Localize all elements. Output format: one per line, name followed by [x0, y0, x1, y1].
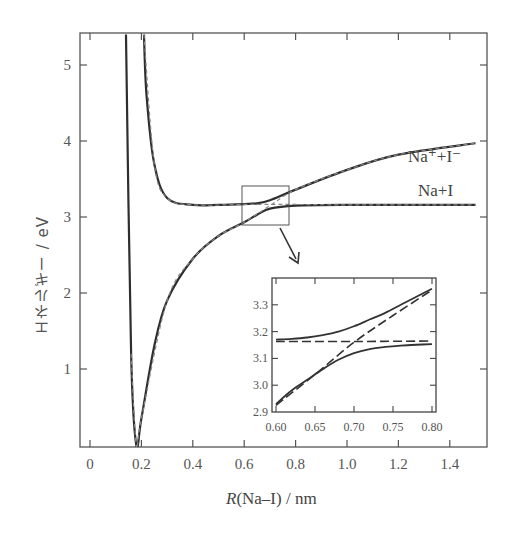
inset-x-tick-label: 0.75	[383, 420, 404, 434]
ionic-asymptote-label: Na⁺+I⁻	[408, 147, 461, 166]
x-tick-label: 0.2	[132, 456, 151, 472]
inset-y-tick-label: 3.2	[253, 325, 268, 339]
x-tick-label: 1.0	[338, 456, 357, 472]
inset-y-tick-label: 3.3	[253, 298, 268, 312]
y-axis-title: エネルギー / eV	[30, 175, 54, 375]
x-axis-title-variable: R	[225, 489, 237, 508]
adiabatic-curve	[144, 35, 476, 206]
inset-x-tick-label: 0.80	[422, 420, 443, 434]
arrow-icon	[280, 228, 299, 263]
covalent-asymptote-label: Na+I	[418, 181, 453, 200]
x-axis-title-rest: (Na–I) / nm	[236, 489, 316, 508]
inset-y-tick-label: 2.9	[253, 405, 268, 419]
x-tick-label: 0.8	[286, 456, 305, 472]
x-axis-title: R(Na–I) / nm	[225, 489, 317, 508]
x-tick-label: 1.4	[440, 456, 459, 472]
diabatic-curve	[144, 35, 476, 206]
x-tick-label: 0.6	[235, 456, 254, 472]
inset-x-tick-label: 0.65	[305, 420, 326, 434]
x-tick-label: 0.4	[183, 456, 202, 472]
y-tick-label: 1	[64, 361, 72, 377]
y-tick-label: 4	[64, 133, 72, 149]
y-tick-label: 5	[64, 57, 72, 73]
inset-y-tick-label: 3.1	[253, 351, 268, 365]
y-tick-label: 3	[64, 209, 72, 225]
x-tick-label: 1.2	[389, 456, 408, 472]
x-tick-label: 0	[86, 456, 94, 472]
inset-y-tick-label: 3.0	[253, 378, 268, 392]
potential-energy-chart: 00.20.40.60.81.01.21.412345 0.600.650.70…	[0, 0, 518, 533]
y-tick-label: 2	[64, 285, 72, 301]
inset-x-tick-label: 0.60	[266, 420, 287, 434]
inset-x-tick-label: 0.70	[344, 420, 365, 434]
